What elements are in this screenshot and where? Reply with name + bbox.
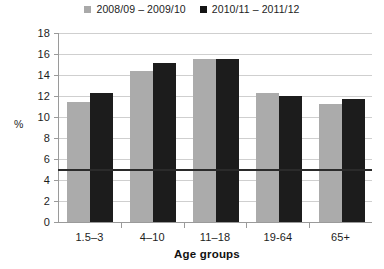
x-tick-label: 19-64: [263, 231, 292, 243]
x-tick-label: 65+: [331, 231, 350, 243]
legend-swatch-icon-series-0: [84, 6, 91, 13]
y-tick-label: 14: [10, 69, 50, 81]
legend-label-series-1: 2010/11 – 2011/12: [212, 3, 300, 15]
y-tick-label: 0: [10, 216, 50, 228]
bar-group: [256, 33, 302, 222]
bar-series-1: [90, 93, 113, 222]
bar-group: [130, 33, 176, 222]
x-tick-label: 4–10: [140, 231, 165, 243]
y-tick-label: 10: [10, 111, 50, 123]
reference-line: [58, 169, 372, 171]
bar-chart: 2008/09 – 2009/10 2010/11 – 2011/12 % 02…: [0, 0, 384, 269]
bar-series-0: [193, 59, 216, 222]
bar-series-1: [342, 99, 365, 222]
x-tick-mark: [246, 222, 247, 228]
bars-layer: [58, 33, 372, 222]
bar-series-0: [256, 93, 279, 222]
bar-series-1: [153, 63, 176, 222]
x-tick-mark: [121, 222, 122, 228]
legend-swatch-icon-series-1: [200, 6, 207, 13]
bar-series-0: [319, 104, 342, 222]
bar-series-0: [130, 71, 153, 222]
y-tick-label: 2: [10, 195, 50, 207]
y-tick-label: 12: [10, 90, 50, 102]
y-tick-label: 16: [10, 48, 50, 60]
legend-label-series-0: 2008/09 – 2009/10: [96, 3, 185, 15]
y-tick-label: 18: [10, 27, 50, 39]
legend-item-series-0: 2008/09 – 2009/10: [84, 3, 185, 15]
bar-series-0: [67, 102, 90, 222]
x-axis-line: [58, 222, 372, 223]
y-tick-label: 8: [10, 132, 50, 144]
x-tick-mark: [309, 222, 310, 228]
y-tick-label: 6: [10, 153, 50, 165]
legend-item-series-1: 2010/11 – 2011/12: [200, 3, 300, 15]
y-tick-label: 4: [10, 174, 50, 186]
bar-group: [67, 33, 113, 222]
x-tick-label: 1.5–3: [75, 231, 103, 243]
bar-series-1: [216, 59, 239, 222]
chart-legend: 2008/09 – 2009/10 2010/11 – 2011/12: [0, 3, 384, 15]
bar-group: [319, 33, 365, 222]
x-axis-title: Age groups: [0, 248, 384, 260]
bar-group: [193, 33, 239, 222]
x-tick-label: 11–18: [200, 231, 230, 243]
x-tick-mark: [184, 222, 185, 228]
bar-series-1: [279, 96, 302, 222]
